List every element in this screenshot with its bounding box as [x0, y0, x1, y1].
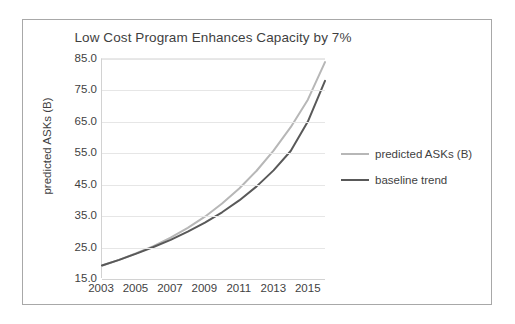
- x-axis-tick-label: 2007: [157, 282, 183, 294]
- y-axis-tick-label: 35.0: [49, 209, 97, 221]
- y-axis-tick-label: 75.0: [49, 83, 97, 95]
- legend-color-swatch: [341, 179, 369, 181]
- x-axis-tick-label: 2011: [226, 282, 251, 294]
- gridline: [102, 90, 325, 91]
- legend-item[interactable]: predicted ASKs (B): [341, 141, 491, 167]
- legend-item[interactable]: baseline trend: [341, 167, 491, 193]
- y-axis-tick-label: 25.0: [49, 241, 97, 253]
- chart-legend: predicted ASKs (B)baseline trend: [341, 141, 491, 193]
- legend-item-label: baseline trend: [375, 174, 447, 186]
- gridline: [102, 185, 325, 186]
- series-line: [102, 81, 325, 266]
- chart-frame: Low Cost Program Enhances Capacity by 7%…: [22, 19, 492, 305]
- legend-item-label: predicted ASKs (B): [375, 148, 472, 160]
- x-axis-tick-label: 2005: [123, 282, 149, 294]
- x-axis-tick-label: 2013: [261, 282, 287, 294]
- gridline: [102, 122, 325, 123]
- legend-color-swatch: [341, 153, 369, 155]
- x-axis-tick-label: 2009: [192, 282, 218, 294]
- x-axis-tick-label: 2003: [88, 282, 114, 294]
- x-axis-tick-labels: 2003200520072009201120132015: [101, 282, 325, 302]
- series-lines: [102, 59, 325, 278]
- y-axis-tick-label: 85.0: [49, 52, 97, 64]
- gridline: [102, 248, 325, 249]
- gridline: [102, 153, 325, 154]
- y-axis-tick-label: 55.0: [49, 146, 97, 158]
- x-axis-tick-label: 2015: [295, 282, 321, 294]
- gridline: [102, 279, 325, 280]
- gridline: [102, 59, 325, 60]
- y-axis-tick-label: 65.0: [49, 115, 97, 127]
- gridline: [102, 216, 325, 217]
- plot-area: [101, 58, 325, 278]
- y-axis-tick-label: 45.0: [49, 178, 97, 190]
- series-line: [102, 62, 325, 265]
- chart-title: Low Cost Program Enhances Capacity by 7%: [23, 30, 403, 45]
- y-axis-tick-labels: 15.025.035.045.055.065.075.085.0: [49, 58, 97, 278]
